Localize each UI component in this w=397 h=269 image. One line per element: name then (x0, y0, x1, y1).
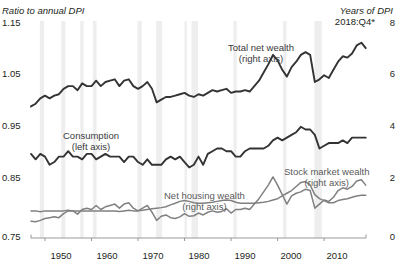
x-tick-2010: 2010 (315, 250, 359, 261)
series-label-total-net-wealth: Total net wealth (right axis) (228, 42, 294, 64)
x-tick-1970: 1970 (131, 250, 175, 261)
chart-container: Ratio to annual DPI Years of DPI 2018:Q4… (0, 0, 397, 269)
x-tick-2000: 2000 (269, 250, 313, 261)
x-tick-1950: 1950 (39, 250, 83, 261)
series-label-stock-market-wealth-axis: (right axis) (284, 177, 370, 188)
series-label-net-housing-wealth-axis: (right axis) (164, 201, 245, 212)
recession-band-5 (156, 21, 162, 238)
x-tick-1990: 1990 (223, 250, 267, 261)
series-label-stock-market-wealth: Stock market wealth (right axis) (284, 166, 370, 188)
series-label-total-net-wealth-name: Total net wealth (228, 42, 294, 53)
plot-area (0, 0, 397, 269)
series-label-net-housing-wealth-name: Net housing wealth (164, 190, 245, 201)
recession-band-4 (138, 21, 142, 238)
series-label-consumption: Consumption (left axis) (63, 130, 119, 152)
series-label-consumption-name: Consumption (63, 130, 119, 141)
series-label-stock-market-wealth-name: Stock market wealth (284, 166, 370, 177)
series-label-consumption-axis: (left axis) (63, 141, 119, 152)
x-tick-1980: 1980 (177, 250, 221, 261)
x-tick-1960: 1960 (85, 250, 129, 261)
series-label-net-housing-wealth: Net housing wealth (right axis) (164, 190, 245, 212)
series-label-total-net-wealth-axis: (right axis) (228, 53, 294, 64)
recession-band-0 (40, 21, 44, 238)
